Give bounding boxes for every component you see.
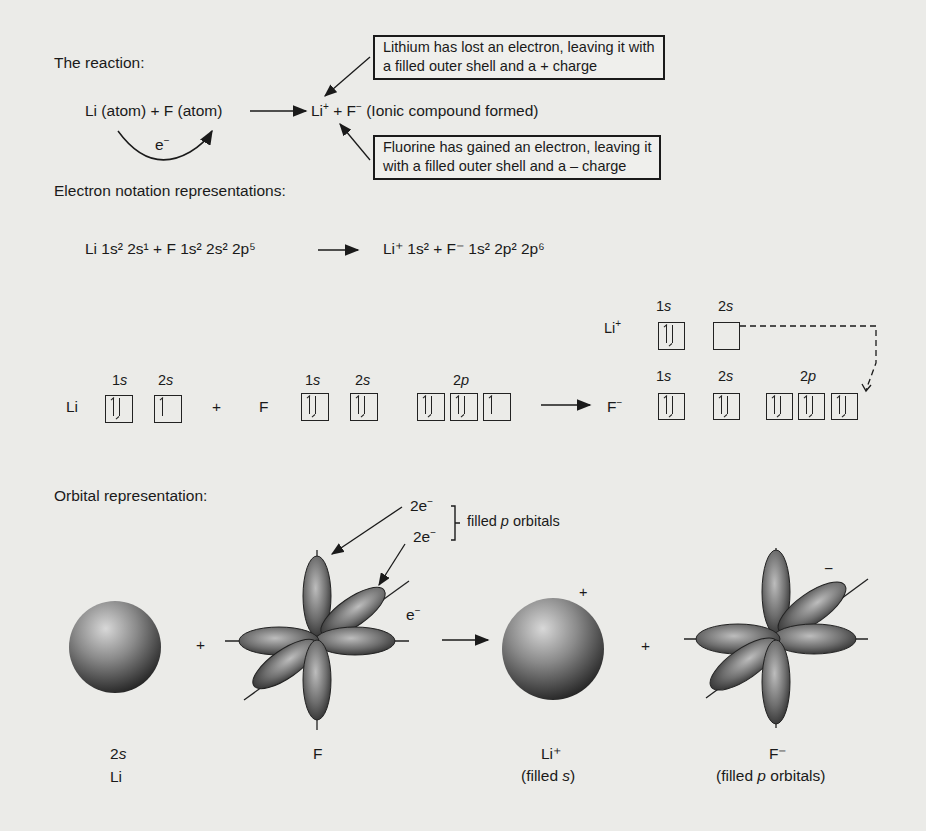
orbital-plus-2: + bbox=[641, 637, 650, 655]
li-ion-box-label: Li+ bbox=[604, 320, 621, 336]
li-ion-2s-box-empty bbox=[713, 322, 740, 350]
f-box-label: F bbox=[259, 398, 268, 416]
li-ion-orbital-desc: (filled s) bbox=[521, 767, 575, 785]
li-ion-2s-label: 2s bbox=[718, 298, 733, 314]
transferred-electron-label: e− bbox=[406, 606, 420, 624]
f-1s-label: 1s bbox=[305, 372, 320, 388]
f-1s-box bbox=[301, 393, 329, 421]
li-2s-label: 2s bbox=[158, 372, 173, 388]
f-ion-box-label: F− bbox=[607, 398, 622, 416]
f-ion-2p-box-3 bbox=[831, 393, 858, 420]
li-ion-1s-box bbox=[658, 322, 685, 350]
f-2s-label: 2s bbox=[355, 372, 370, 388]
f-callout-pointer bbox=[340, 124, 370, 160]
fluorine-callout: Fluorine has gained an electron, leaving… bbox=[373, 135, 661, 180]
li-ion-1s-label: 1s bbox=[656, 298, 671, 314]
orbital-plus-1: + bbox=[196, 636, 205, 654]
products: Li+ + F− (Ionic compound formed) bbox=[311, 102, 539, 120]
reaction-heading: The reaction: bbox=[54, 54, 144, 72]
f-2p-box-3 bbox=[483, 393, 511, 421]
pair-label-2: 2e− bbox=[413, 528, 436, 546]
lithium-callout: Lithium has lost an electron, leaving it… bbox=[373, 35, 665, 80]
li-ion-charge: + bbox=[579, 584, 587, 600]
f-orbital-name: F bbox=[313, 745, 322, 763]
orbital-heading: Orbital representation: bbox=[54, 487, 207, 505]
reactants: Li (atom) + F (atom) bbox=[85, 102, 222, 120]
electron-label: e− bbox=[155, 136, 169, 154]
li-2s-box bbox=[154, 395, 182, 423]
f-2p-box-1 bbox=[417, 393, 445, 421]
notation-heading: Electron notation representations: bbox=[54, 182, 286, 200]
li-2s-label: 2s bbox=[110, 745, 126, 763]
f-ion-2p-box-2 bbox=[798, 393, 825, 420]
f-ion-orbital-name: F⁻ bbox=[769, 745, 786, 763]
f-ion-2s-label: 2s bbox=[718, 368, 733, 384]
f-ion-2p-box-1 bbox=[766, 393, 793, 420]
li-2s-orbital bbox=[69, 601, 161, 693]
pair-label-1: 2e− bbox=[410, 497, 433, 515]
li-notation: Li 1s² 2s¹ + F 1s² 2s² 2p⁵ bbox=[85, 240, 256, 258]
li-callout-pointer bbox=[325, 57, 370, 96]
li-orbital-name: Li bbox=[110, 768, 122, 786]
li-ion-orbital bbox=[502, 598, 604, 700]
li-ion-orbital-name: Li⁺ bbox=[541, 745, 561, 763]
f-2p-label: 2p bbox=[453, 372, 469, 388]
f-2p-box-2 bbox=[450, 393, 478, 421]
li-box-label: Li bbox=[66, 398, 78, 416]
f-ion-2p-label: 2p bbox=[800, 368, 816, 384]
ion-notation: Li⁺ 1s² + F⁻ 1s² 2p² 2p⁶ bbox=[383, 240, 545, 258]
f-ion-1s-box bbox=[658, 393, 685, 420]
f-p-orbitals bbox=[225, 550, 409, 730]
li-1s-label: 1s bbox=[112, 372, 127, 388]
li-1s-box bbox=[105, 395, 133, 423]
f-ion-orbital-desc: (filled p orbitals) bbox=[716, 767, 825, 785]
box-plus: + bbox=[212, 398, 221, 416]
f-ion-p-orbitals bbox=[684, 548, 868, 728]
filled-p-orbitals-label: filled p orbitals bbox=[467, 513, 560, 529]
f-ion-2s-box bbox=[713, 393, 740, 420]
f-ion-charge: − bbox=[824, 560, 833, 578]
f-ion-1s-label: 1s bbox=[656, 368, 671, 384]
f-2s-box bbox=[350, 393, 378, 421]
